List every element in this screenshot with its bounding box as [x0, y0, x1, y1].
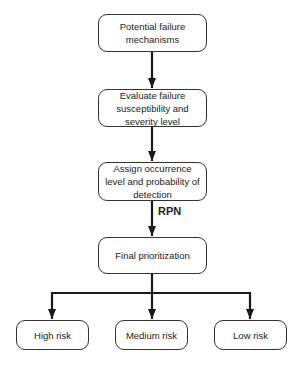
node-high-risk: High risk — [16, 320, 89, 350]
node-text: High risk — [34, 329, 71, 342]
node-text: Low risk — [233, 329, 268, 342]
node-final-prioritization: Final prioritization — [98, 237, 207, 274]
edge-label-rpn: RPN — [158, 205, 181, 217]
node-text: Assign occurrence level and probability … — [103, 162, 202, 201]
node-text: Potential failure mechanisms — [103, 20, 202, 46]
node-potential-failure-mechanisms: Potential failure mechanisms — [98, 14, 207, 52]
node-evaluate-failure-susceptibility: Evaluate failure susceptibility and seve… — [98, 89, 207, 127]
node-text: Evaluate failure susceptibility and seve… — [103, 89, 202, 128]
node-assign-occurrence-level: Assign occurrence level and probability … — [98, 162, 207, 201]
node-medium-risk: Medium risk — [115, 320, 188, 350]
node-low-risk: Low risk — [214, 320, 287, 350]
node-text: Final prioritization — [115, 249, 189, 262]
node-text: Medium risk — [126, 329, 177, 342]
